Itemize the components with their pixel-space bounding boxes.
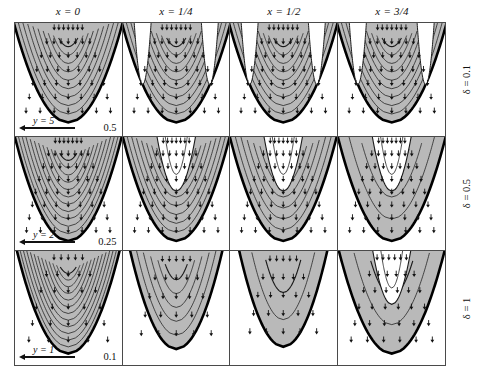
panel-r2-c2 [230, 251, 338, 365]
panel-r1-c0: y = 20.25 [15, 137, 123, 251]
row-label-delta-0-1: δ = 0.1 [450, 22, 484, 137]
column-header-x-1-2: x = 1/2 [230, 2, 338, 20]
panel-r0-c2 [230, 23, 338, 137]
panel-r1-c2 [230, 137, 338, 251]
panel-r2-c1 [123, 251, 231, 365]
row-label-delta-0-5: δ = 0.5 [450, 137, 484, 252]
panel-r1-c3 [338, 137, 446, 251]
column-header-row: x = 0 x = 1/4 x = 1/2 x = 3/4 [14, 2, 446, 20]
figure-root: x = 0 x = 1/4 x = 1/2 x = 3/4 y = 50.5y … [0, 0, 490, 375]
magnitude-label-row-1: 0.25 [98, 236, 116, 247]
row-label-delta-0-1-text: δ = 0.1 [462, 65, 473, 94]
row-label-delta-1-text: δ = 1 [462, 298, 473, 319]
panel-grid: y = 50.5y = 20.25y = 10.1 [14, 22, 446, 366]
magnitude-label-row-0: 0.5 [103, 122, 116, 133]
row-label-delta-1: δ = 1 [450, 251, 484, 366]
magnitude-label-row-2: 0.1 [103, 351, 116, 362]
column-header-x-1-4: x = 1/4 [122, 2, 230, 20]
column-header-x-0: x = 0 [14, 2, 122, 20]
panel-r0-c3 [338, 23, 446, 137]
column-header-x-3-4: x = 3/4 [338, 2, 446, 20]
panel-r0-c0: y = 50.5 [15, 23, 123, 137]
panel-r1-c1 [123, 137, 231, 251]
panel-r2-c0: y = 10.1 [15, 251, 123, 365]
row-label-column: δ = 0.1 δ = 0.5 δ = 1 [450, 22, 484, 366]
row-label-delta-0-5-text: δ = 0.5 [462, 179, 473, 208]
panel-r2-c3 [338, 251, 446, 365]
panel-r0-c1 [123, 23, 231, 137]
